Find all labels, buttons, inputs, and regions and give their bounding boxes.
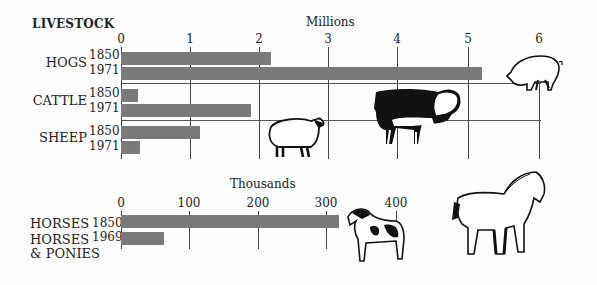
hog-icon (505, 50, 565, 95)
bar-cattle-1971 (121, 104, 251, 117)
category-label-ponies: & PONIES (30, 246, 110, 261)
bar-cattle-1850 (121, 89, 138, 102)
year-label: 1971 (89, 101, 120, 115)
sheep-icon (265, 115, 327, 161)
bar-hogs-1850 (121, 52, 271, 65)
year-label: 1850 (89, 48, 120, 62)
unit-label-millions: Millions (306, 15, 355, 29)
tick-label: 4 (393, 32, 401, 46)
tick-label: 100 (178, 196, 201, 210)
tick-label: 0 (117, 196, 125, 210)
year-label: 1971 (89, 139, 120, 153)
tick-label: 6 (535, 32, 543, 46)
year-label: 1971 (89, 63, 120, 77)
category-label-sheep: SHEEP (10, 130, 87, 145)
category-label-horses: HORSES (30, 216, 88, 231)
year-label: 1850 (92, 216, 123, 230)
bar-sheep-1850 (121, 126, 200, 139)
bar-horses-1850 (121, 215, 339, 228)
group-separator (121, 83, 541, 84)
bar-hogs-1971 (121, 67, 482, 80)
bar-sheep-1971 (121, 141, 140, 154)
tick-label: 0 (117, 32, 125, 46)
cattle-icon (372, 86, 467, 148)
unit-label-thousands: Thousands (230, 177, 296, 191)
gridline (539, 84, 540, 159)
year-label: 1969 (92, 230, 123, 244)
tick-label: 2 (255, 32, 263, 46)
tick-label: 3 (324, 32, 332, 46)
tick-label: 300 (315, 196, 338, 210)
group-separator (121, 120, 541, 121)
pony-icon (344, 205, 408, 265)
tick-label: 200 (247, 196, 270, 210)
category-label-hogs: HOGS (30, 55, 87, 70)
category-label-cattle: CATTLE (10, 93, 87, 108)
tick-label: 5 (464, 32, 472, 46)
chart-title: LIVESTOCK (32, 17, 114, 31)
year-label: 1850 (89, 124, 120, 138)
category-label-horses-ponies: HORSES (30, 232, 88, 247)
gridline (328, 47, 329, 159)
year-label: 1850 (89, 86, 120, 100)
bar-horses-ponies-1969 (121, 232, 164, 245)
gridline (468, 47, 469, 159)
draft-horse-icon (448, 168, 550, 260)
tick-label: 1 (186, 32, 194, 46)
